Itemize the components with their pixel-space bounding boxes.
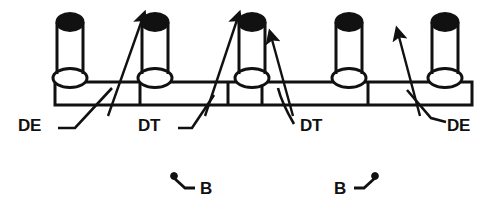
- callout-de-right-label: DE: [447, 116, 470, 135]
- b-symbol-right-dot: [372, 173, 379, 180]
- arrow-1: [108, 17, 143, 116]
- b-symbol-right-label: B: [334, 179, 346, 198]
- b-symbol-left-elbow: [174, 178, 195, 188]
- technical-diagram: DE DT DT DE B B: [0, 0, 498, 217]
- b-symbol-left: B: [171, 173, 213, 198]
- callout-de-left-label: DE: [18, 116, 41, 135]
- post-4: [332, 14, 366, 88]
- b-symbol-right: B: [334, 173, 378, 198]
- post-4-cap-ellipse: [336, 14, 362, 31]
- post-3-cap-ellipse: [239, 14, 265, 31]
- b-symbol-left-dot: [171, 173, 178, 180]
- post-5: [428, 14, 462, 88]
- b-symbol-left-label: B: [200, 179, 212, 198]
- callout-dt-left-leader: [178, 95, 214, 128]
- post-1-cap-ellipse: [57, 14, 83, 31]
- callout-de-left-leader: [58, 88, 112, 128]
- post-1: [53, 14, 87, 88]
- callout-dt-left-label: DT: [138, 116, 161, 135]
- post-5-cap-ellipse: [432, 14, 458, 31]
- callout-dt-right-label: DT: [300, 116, 323, 135]
- b-symbol-right-elbow: [354, 178, 375, 188]
- diagram-canvas: DE DT DT DE B B: [0, 0, 498, 217]
- post-2-cap-ellipse: [142, 14, 168, 31]
- post-3: [235, 14, 269, 88]
- post-2: [138, 14, 172, 88]
